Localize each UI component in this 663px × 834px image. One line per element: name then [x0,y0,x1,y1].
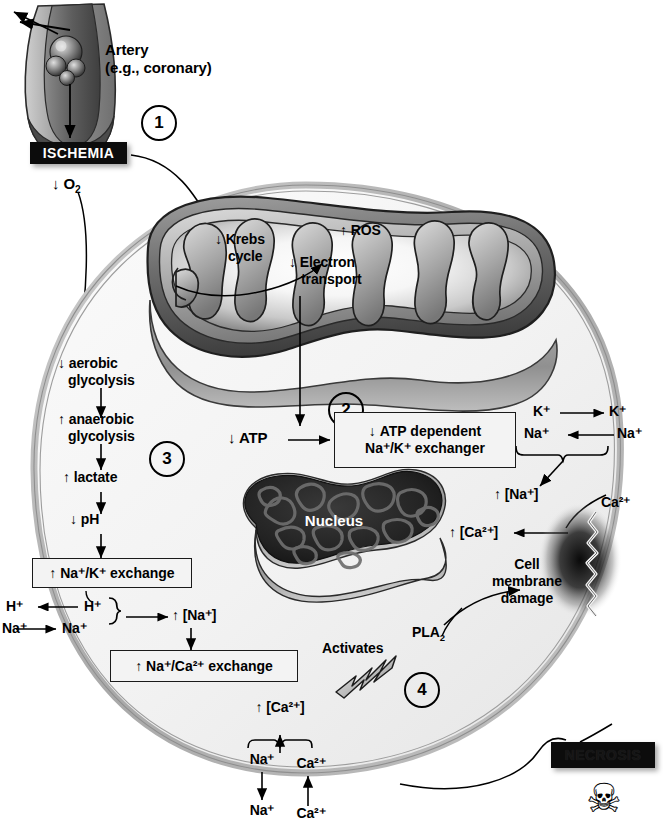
bottom-ca-inner-label: Ca²⁺ [296,756,325,772]
h-out-label: H⁺ [6,599,23,615]
bottom-ca-concentration-label: ↑ [Ca²⁺] [256,700,305,716]
na-k-exchange-box: ↑ Na⁺/K⁺ exchange [32,558,192,588]
figure-canvas: Artery (e.g., coronary) 1 ISCHEMIA ↓ O2 … [0,0,663,834]
left-na-concentration-label: ↑ [Na⁺] [172,608,216,624]
artery-label: Artery [105,42,149,59]
lactate-label: ↑ lactate [63,470,117,486]
artery-sublabel: (e.g., coronary) [105,60,212,77]
activates-label: Activates [322,641,383,657]
bottom-ca-outer-label: Ca²⁺ [296,806,325,822]
krebs-cycle-label-2: cycle [228,249,263,265]
skull-and-crossbones-icon: ☠ [586,778,622,818]
na-ca-exchange-box: ↑ Na⁺/Ca²⁺ exchange [110,650,298,682]
artery-illustration [14,4,115,160]
membrane-damage-line1: Cell [514,557,539,573]
right-ca-concentration-label: ↑ [Ca²⁺] [449,525,498,541]
bottom-na-inner-label: Na⁺ [250,752,275,768]
na-out-label: Na⁺ [2,621,27,637]
external-calcium-label: Ca²⁺ [601,495,630,511]
atp-dependent-line1: ↓ ATP dependent [369,423,481,440]
atp-dependent-line2: Na⁺/K⁺ exchanger [365,440,485,457]
atp-dependent-exchanger-box: ↓ ATP dependent Na⁺/K⁺ exchanger [334,412,516,468]
oxygen-decrease-label: ↓ O2 [52,176,81,193]
na-ca-exchange-text: ↑ Na⁺/Ca²⁺ exchange [135,658,273,675]
ros-label: ↑ ROS [340,223,381,239]
electron-transport-label: ↓ Electron [289,255,355,271]
krebs-cycle-label: ↓ Krebs [215,232,265,248]
k-in-label: K⁺ [533,404,550,420]
step-number-4: 4 [404,672,440,708]
aerobic-glycolysis-label-2: glycolysis [68,373,135,389]
aerobic-glycolysis-label: ↓ aerobic [58,356,118,372]
k-out-label: K⁺ [609,404,626,420]
h-in-label: H⁺ [84,599,101,615]
necrosis-label: NECROSIS [551,742,655,768]
step-number-1: 1 [141,105,177,141]
ischemia-label: ISCHEMIA [30,142,127,164]
na-k-exchange-text: ↑ Na⁺/K⁺ exchange [49,565,174,582]
atp-label: ↓ ATP [228,430,268,447]
right-na-concentration-label: ↑ [Na⁺] [494,487,538,503]
anaerobic-glycolysis-label-2: glycolysis [68,429,135,445]
na-out-right-label: Na⁺ [617,426,642,442]
bottom-na-outer-label: Na⁺ [250,803,275,819]
na-in-label: Na⁺ [62,621,87,637]
pla2-label: PLA2 [412,625,445,641]
na-in-right-label: Na⁺ [524,426,549,442]
step-number-3: 3 [149,441,185,477]
electron-transport-label-2: transport [301,272,362,288]
anaerobic-glycolysis-label: ↑ anaerobic [58,412,134,428]
membrane-damage-line3: damage [501,591,553,607]
ph-label: ↓ pH [70,512,99,528]
nucleus-label: Nucleus [305,512,363,529]
membrane-damage-line2: membrane [492,574,562,590]
